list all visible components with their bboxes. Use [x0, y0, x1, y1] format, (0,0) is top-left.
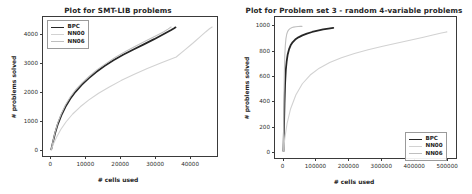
chart-panel-right: Plot for Problem set 3 - random 4-variab…: [236, 0, 472, 194]
legend-label: BPC: [68, 24, 80, 30]
y-tick-mark: [40, 92, 42, 93]
legend-swatch-icon: [409, 153, 422, 154]
chart-panel-left: Plot for SMT-LIB problems 01000020000300…: [0, 0, 236, 194]
x-axis-label: # cells used: [236, 178, 472, 185]
x-tick-mark: [120, 157, 121, 159]
y-axis-label: # problems solved: [10, 27, 17, 147]
x-tick-label: 40000: [181, 161, 199, 167]
chart-legend[interactable]: BPCNN00NN06: [405, 132, 447, 161]
x-tick-label: 500000: [436, 163, 457, 169]
legend-swatch-icon: [51, 34, 64, 35]
y-tick-mark: [272, 76, 274, 77]
y-tick-label: 0: [244, 149, 270, 155]
y-tick-mark: [40, 34, 42, 35]
x-tick-label: 0: [281, 163, 285, 169]
x-tick-mark: [381, 159, 382, 161]
legend-item[interactable]: NN06: [409, 150, 443, 157]
y-axis-label: # problems solved: [243, 28, 250, 148]
x-tick-label: 200000: [338, 163, 359, 169]
series-line: [283, 28, 333, 151]
y-tick-label: 0: [12, 147, 38, 153]
legend-item[interactable]: NN00: [409, 143, 443, 150]
legend-swatch-icon: [51, 41, 64, 42]
x-tick-mark: [315, 159, 316, 161]
x-tick-label: 10000: [76, 161, 94, 167]
x-tick-label: 20000: [111, 161, 129, 167]
x-tick-mark: [190, 157, 191, 159]
x-axis-label: # cells used: [0, 176, 236, 183]
x-tick-mark: [447, 159, 448, 161]
y-tick-mark: [272, 152, 274, 153]
y-tick-mark: [40, 63, 42, 64]
chart-title: Plot for Problem set 3 - random 4-variab…: [236, 6, 472, 15]
x-tick-mark: [348, 159, 349, 161]
legend-label: NN00: [68, 31, 85, 37]
chart-title: Plot for SMT-LIB problems: [0, 6, 236, 15]
x-tick-label: 0: [49, 161, 53, 167]
legend-label: NN06: [426, 151, 443, 157]
chart-legend[interactable]: BPCNN00NN06: [47, 20, 89, 49]
x-tick-label: 300000: [371, 163, 392, 169]
y-tick-mark: [272, 25, 274, 26]
legend-swatch-icon: [409, 139, 422, 140]
y-tick-mark: [272, 51, 274, 52]
y-tick-mark: [40, 121, 42, 122]
figure-canvas: Plot for SMT-LIB problems 01000020000300…: [0, 0, 472, 194]
y-tick-mark: [272, 127, 274, 128]
legend-item[interactable]: NN00: [51, 31, 85, 38]
legend-item[interactable]: NN06: [51, 38, 85, 45]
x-tick-mark: [85, 157, 86, 159]
legend-swatch-icon: [409, 146, 422, 147]
x-tick-mark: [155, 157, 156, 159]
y-tick-mark: [40, 150, 42, 151]
legend-label: BPC: [426, 136, 438, 142]
x-tick-mark: [283, 159, 284, 161]
x-tick-label: 30000: [146, 161, 164, 167]
legend-label: NN00: [426, 143, 443, 149]
x-tick-mark: [50, 157, 51, 159]
x-tick-label: 100000: [305, 163, 326, 169]
y-tick-mark: [272, 101, 274, 102]
legend-swatch-icon: [51, 27, 64, 28]
x-tick-label: 400000: [404, 163, 425, 169]
legend-label: NN06: [68, 39, 85, 45]
